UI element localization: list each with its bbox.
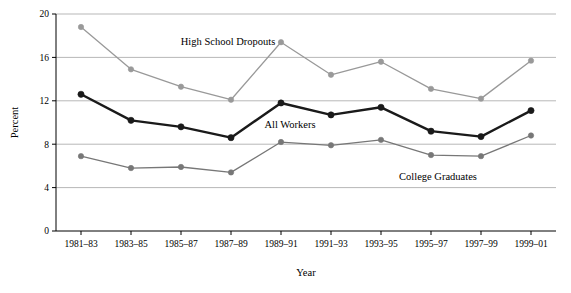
series-label-3: College Graduates	[399, 171, 477, 182]
data-point	[328, 143, 333, 148]
x-axis-tick-label: 1989–91	[264, 239, 298, 249]
data-point	[78, 91, 84, 97]
data-point	[278, 139, 283, 144]
data-point	[178, 164, 183, 169]
x-axis-tick-label: 1987–89	[214, 239, 248, 249]
series-line	[81, 136, 531, 173]
data-point	[328, 72, 333, 77]
y-axis-tick-label: 8	[44, 140, 49, 150]
data-point	[228, 97, 233, 102]
data-point	[428, 152, 433, 157]
data-point	[228, 135, 234, 141]
chart-container: 0481216201981–831983–851985–871987–89198…	[0, 0, 571, 293]
series-label-1: High School Dropouts	[181, 36, 276, 47]
data-point	[528, 133, 533, 138]
data-point	[128, 117, 134, 123]
data-point	[178, 124, 184, 130]
data-point	[278, 100, 284, 106]
x-axis-tick-label: 1983–85	[114, 239, 148, 249]
data-point	[378, 104, 384, 110]
data-point	[178, 84, 183, 89]
y-axis-title: Percent	[9, 107, 20, 139]
x-axis-tick-label: 1993–95	[364, 239, 398, 249]
data-point	[478, 153, 483, 158]
y-axis-tick-label: 4	[44, 183, 49, 193]
data-point	[528, 58, 533, 63]
x-axis-title: Year	[296, 267, 316, 278]
x-axis-tick-label: 1985–87	[164, 239, 198, 249]
x-axis-tick-label: 1981–83	[64, 239, 98, 249]
data-point	[128, 67, 133, 72]
data-point	[128, 165, 133, 170]
y-axis-tick-label: 16	[40, 53, 50, 63]
data-point	[228, 170, 233, 175]
data-point	[528, 107, 534, 113]
series-label-2: All Workers	[264, 119, 315, 130]
data-point	[428, 86, 433, 91]
x-axis-tick-label: 1995–97	[414, 239, 448, 249]
x-axis-tick-label: 1991–93	[314, 239, 348, 249]
x-axis-tick-label: 1999–01	[514, 239, 548, 249]
data-point	[378, 137, 383, 142]
y-axis-tick-label: 12	[40, 96, 50, 106]
data-point	[428, 128, 434, 134]
data-point	[328, 112, 334, 118]
y-axis-tick-label: 20	[40, 9, 50, 19]
data-point	[478, 96, 483, 101]
data-point	[78, 153, 83, 158]
series-line	[81, 27, 531, 100]
line-chart: 0481216201981–831983–851985–871987–89198…	[0, 0, 571, 293]
x-axis-tick-label: 1997–99	[464, 239, 498, 249]
data-point	[378, 59, 383, 64]
y-axis-tick-label: 0	[44, 226, 49, 236]
data-point	[278, 40, 283, 45]
data-point	[478, 134, 484, 140]
data-point	[78, 24, 83, 29]
